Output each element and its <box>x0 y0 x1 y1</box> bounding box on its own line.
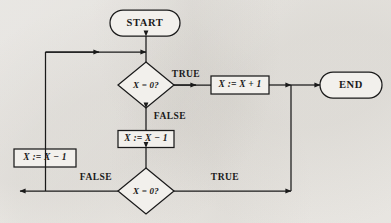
edge-label-cond1-true: TRUE <box>172 70 200 80</box>
flowchart-graphics <box>0 0 391 223</box>
node-increment-label: X := X + 1 <box>219 80 262 90</box>
node-decrement-mid-label: X := X − 1 <box>124 134 167 144</box>
node-start-label: START <box>127 18 164 29</box>
node-cond1-label: X = 0? <box>133 81 159 90</box>
node-decrement-left-label: X := X − 1 <box>23 153 66 163</box>
flowchart-canvas: START X = 0? X := X + 1 END X := X − 1 X… <box>0 0 391 223</box>
edge-label-cond1-false: FALSE <box>154 112 186 122</box>
node-end-label: END <box>339 80 363 91</box>
edge-label-cond2-false: FALSE <box>80 173 112 183</box>
node-cond2-label: X = 0? <box>133 187 159 196</box>
edge-label-cond2-true: TRUE <box>211 173 239 183</box>
